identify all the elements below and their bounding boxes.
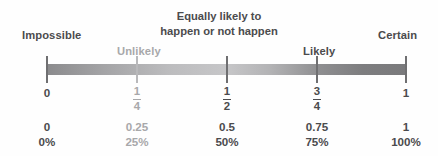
fraction-one-half: 1 2 xyxy=(223,86,231,113)
tick-mark-1 xyxy=(405,56,407,83)
decimal-label-1: 1 xyxy=(368,120,438,133)
fraction-label-0: 0 xyxy=(9,86,85,99)
label-equally-likely-line2: happen or not happen xyxy=(0,24,438,39)
fraction-label-1: 1 xyxy=(368,86,438,99)
fraction-numerator: 3 xyxy=(313,86,321,98)
tick-mark-0 xyxy=(46,56,48,83)
fraction-numerator: 1 xyxy=(133,86,141,98)
percent-label-75: 75% xyxy=(279,135,355,148)
decimal-label-0.25: 0.25 xyxy=(99,120,175,133)
decimal-label-0: 0 xyxy=(9,120,85,133)
decimal-label-0.75: 0.75 xyxy=(279,120,355,133)
fraction-label-one-quarter: 1 4 xyxy=(99,86,175,113)
fraction-label-three-quarters: 3 4 xyxy=(279,86,355,113)
percent-label-50: 50% xyxy=(189,135,265,148)
fraction-label-one-half: 1 2 xyxy=(189,86,265,113)
tick-mark-0.25 xyxy=(136,56,138,83)
fraction-denominator: 2 xyxy=(223,99,231,113)
decimal-label-0.5: 0.5 xyxy=(189,120,265,133)
fraction-one-quarter: 1 4 xyxy=(133,86,141,113)
label-certain: Certain xyxy=(378,29,417,42)
fraction-three-quarters: 3 4 xyxy=(313,86,321,113)
fraction-numerator: 1 xyxy=(223,86,231,98)
whole-number-1: 1 xyxy=(403,87,409,99)
fraction-denominator: 4 xyxy=(133,99,141,113)
label-unlikely: Unlikely xyxy=(117,45,161,58)
percent-label-0: 0% xyxy=(9,135,85,148)
whole-number-0: 0 xyxy=(44,87,50,99)
label-equally-likely: Equally likely to happen or not happen xyxy=(0,9,438,39)
fraction-denominator: 4 xyxy=(313,99,321,113)
percent-label-100: 100% xyxy=(368,135,438,148)
probability-scale-figure: Impossible Unlikely Equally likely to ha… xyxy=(0,0,438,156)
percent-label-25: 25% xyxy=(99,135,175,148)
tick-mark-0.75 xyxy=(316,56,318,83)
label-likely: Likely xyxy=(303,45,335,58)
label-equally-likely-line1: Equally likely to xyxy=(0,9,438,24)
tick-mark-0.5 xyxy=(226,56,228,83)
